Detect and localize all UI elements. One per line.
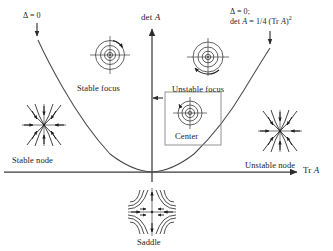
left-discriminant-label: Δ = 0 <box>23 11 41 21</box>
right-discriminant-line2: det A = 1/4 (Tr A)2 <box>230 17 292 27</box>
diagram-canvas <box>0 0 333 251</box>
right-discriminant-line1: Δ = 0; <box>230 7 292 17</box>
trace-determinant-diagram: det A Tr A Δ = 0 Δ = 0; det A = 1/4 (Tr … <box>0 0 333 251</box>
unstable-node-portrait <box>258 110 302 152</box>
det-axis-label: det A <box>141 12 160 23</box>
stable-node-label: Stable node <box>12 155 53 166</box>
saddle-label: Saddle <box>137 237 161 248</box>
stable-focus-portrait <box>90 36 130 74</box>
discriminant-parabola <box>38 40 270 172</box>
stable-node-portrait <box>22 104 66 146</box>
stable-focus-label: Stable focus <box>77 83 120 94</box>
center-label: Center <box>175 131 198 142</box>
tr-axis-label: Tr A <box>303 165 319 176</box>
saddle-portrait <box>128 188 176 236</box>
unstable-focus-portrait <box>187 38 229 76</box>
unstable-focus-label: Unstable focus <box>172 84 224 95</box>
right-discriminant-label: Δ = 0; det A = 1/4 (Tr A)2 <box>230 7 292 27</box>
unstable-node-label: Unstable node <box>245 160 295 171</box>
